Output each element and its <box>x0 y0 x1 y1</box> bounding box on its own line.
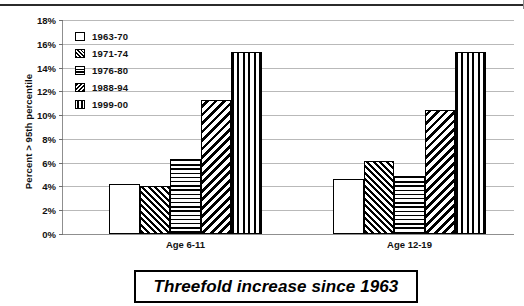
y-tick-label: 4% <box>42 181 56 192</box>
legend-label: 1976-80 <box>92 65 128 76</box>
y-tick-label: 14% <box>37 62 56 73</box>
y-axis-title: Percent > 95th percentile <box>23 42 34 222</box>
bar[interactable] <box>201 100 232 234</box>
bar[interactable] <box>170 159 201 234</box>
y-tick-label: 6% <box>42 157 56 168</box>
plot-area: 0%2%4%6%8%10%12%14%16%18% Age 6-11Age 12… <box>62 20 514 235</box>
bar[interactable] <box>109 184 140 234</box>
legend-swatch-icon <box>75 100 85 109</box>
bar-chart-figure: Percent > 95th percentile 0%2%4%6%8%10%1… <box>0 8 524 306</box>
legend-swatch-icon <box>75 83 85 92</box>
bar[interactable] <box>394 176 425 234</box>
x-axis-category-label: Age 12-19 <box>333 239 486 250</box>
bar[interactable] <box>364 161 395 234</box>
legend-label: 1971-74 <box>92 48 128 59</box>
legend-label: 1963-70 <box>92 31 128 42</box>
caption-text: Threefold increase since 1963 <box>154 277 399 297</box>
bar[interactable] <box>425 110 456 234</box>
y-tick-label: 18% <box>37 15 56 26</box>
bar[interactable] <box>140 186 171 234</box>
y-tick-mark <box>59 234 63 235</box>
legend-label: 1999-00 <box>92 99 128 110</box>
header-rule <box>0 4 524 6</box>
legend-item[interactable]: 1999-00 <box>75 96 128 113</box>
y-tick-label: 12% <box>37 86 56 97</box>
legend-item[interactable]: 1971-74 <box>75 45 128 62</box>
y-tick-label: 8% <box>42 133 56 144</box>
y-tick-label: 10% <box>37 110 56 121</box>
legend-label: 1988-94 <box>92 82 128 93</box>
chart-legend: 1963-701971-741976-801988-941999-00 <box>71 26 132 115</box>
legend-swatch-icon <box>75 66 85 75</box>
bar[interactable] <box>333 179 364 234</box>
bar[interactable] <box>455 52 486 234</box>
x-axis-category-label: Age 6-11 <box>109 239 262 250</box>
legend-item[interactable]: 1976-80 <box>75 62 128 79</box>
y-tick-label: 2% <box>42 205 56 216</box>
bar-group: Age 12-19 <box>333 20 486 234</box>
y-tick-label: 0% <box>42 229 56 240</box>
legend-swatch-icon <box>75 49 85 58</box>
bar[interactable] <box>231 52 262 234</box>
caption-box: Threefold increase since 1963 <box>134 270 418 303</box>
y-tick-label: 16% <box>37 38 56 49</box>
legend-swatch-icon <box>75 32 85 41</box>
legend-item[interactable]: 1963-70 <box>75 28 128 45</box>
legend-item[interactable]: 1988-94 <box>75 79 128 96</box>
